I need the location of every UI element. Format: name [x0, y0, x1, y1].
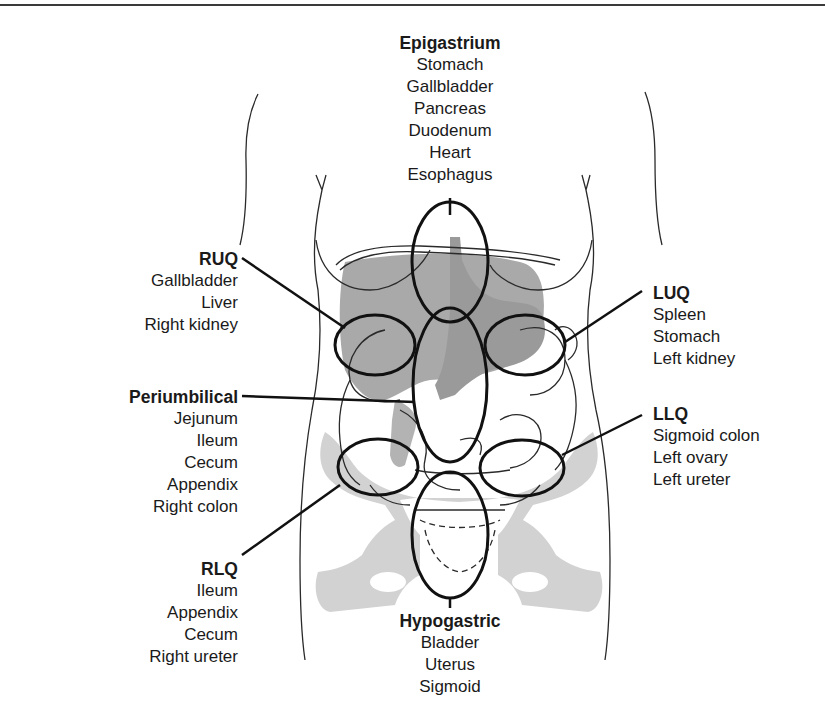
organ-item: Cecum	[60, 452, 238, 474]
organ-item: Stomach	[653, 326, 813, 348]
organ-item: Heart	[370, 142, 530, 164]
organ-item: Appendix	[60, 474, 238, 496]
rlq-leader	[242, 485, 340, 555]
organ-item: Uterus	[370, 654, 530, 676]
epigastrium-label: Epigastrium Stomach Gallbladder Pancreas…	[370, 32, 530, 186]
periumbilical-label: Periumbilical Jejunum Ileum Cecum Append…	[60, 386, 238, 518]
organ-item: Sigmoid colon	[653, 425, 823, 447]
organ-item: Gallbladder	[370, 76, 530, 98]
organ-item: Ileum	[60, 430, 238, 452]
organ-item: Gallbladder	[100, 270, 238, 292]
organ-item: Cecum	[100, 624, 238, 646]
organ-item: Jejunum	[60, 408, 238, 430]
organ-item: Right colon	[60, 496, 238, 518]
hypogastric-ellipse	[412, 472, 488, 598]
llq-label: LLQ Sigmoid colon Left ovary Left ureter	[653, 403, 823, 491]
ruq-leader	[242, 258, 345, 328]
rlq-label: RLQ Ileum Appendix Cecum Right ureter	[100, 558, 238, 668]
organ-item: Left ureter	[653, 469, 823, 491]
ruq-title: RUQ	[100, 248, 238, 270]
epigastrium-title: Epigastrium	[370, 32, 530, 54]
llq-ellipse	[480, 440, 564, 496]
organ-item: Left kidney	[653, 348, 813, 370]
organ-item: Spleen	[653, 304, 813, 326]
llq-leader	[562, 415, 642, 455]
periumbilical-title: Periumbilical	[60, 386, 238, 408]
organ-item: Bladder	[370, 632, 530, 654]
luq-title: LUQ	[653, 282, 813, 304]
organ-item: Appendix	[100, 602, 238, 624]
upper-organs	[340, 237, 545, 467]
organ-item: Sigmoid	[370, 676, 530, 698]
ruq-label: RUQ Gallbladder Liver Right kidney	[100, 248, 238, 336]
organ-item: Pancreas	[370, 98, 530, 120]
organ-item: Right ureter	[100, 646, 238, 668]
organ-item: Ileum	[100, 580, 238, 602]
rlq-title: RLQ	[100, 558, 238, 580]
organ-item: Right kidney	[100, 314, 238, 336]
organ-item: Stomach	[370, 54, 530, 76]
hypogastric-label: Hypogastric Bladder Uterus Sigmoid	[370, 610, 530, 698]
luq-label: LUQ Spleen Stomach Left kidney	[653, 282, 813, 370]
luq-leader	[565, 291, 642, 342]
organ-item: Left ovary	[653, 447, 823, 469]
organ-item: Liver	[100, 292, 238, 314]
llq-title: LLQ	[653, 403, 823, 425]
organ-item: Duodenum	[370, 120, 530, 142]
hypogastric-title: Hypogastric	[370, 610, 530, 632]
organ-item: Esophagus	[370, 164, 530, 186]
